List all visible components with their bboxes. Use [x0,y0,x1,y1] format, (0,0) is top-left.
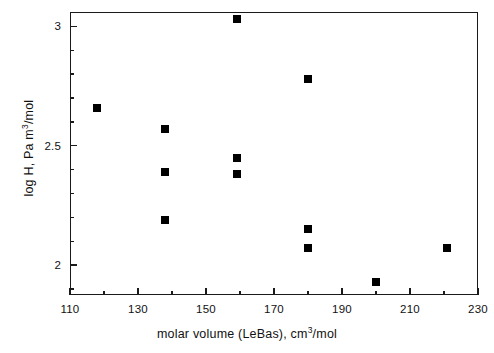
data-point [233,154,241,162]
x-major-tick [341,288,342,295]
y-major-tick [70,26,77,27]
x-tick-label: 230 [468,303,488,315]
y-minor-tick [70,121,74,122]
y-axis-label: log H, Pa m3/mol [20,28,36,268]
data-point [233,170,241,178]
scatter-chart-figure: 110130150170190210230 22.53 molar volume… [0,0,494,353]
x-minor-tick [171,291,172,295]
x-minor-tick [239,291,240,295]
x-tick-label: 110 [61,303,80,315]
y-minor-tick [70,241,74,242]
x-axis-label-pre: molar volume (LeBas), cm [157,327,308,341]
y-minor-tick [70,169,74,170]
x-major-tick [273,288,274,295]
x-major-tick [137,288,138,295]
y-axis-label-pre: log H, Pa m [22,129,36,197]
y-major-tick [70,264,77,265]
x-tick-label: 210 [400,303,420,315]
x-axis-label: molar volume (LeBas), cm3/mol [0,325,494,341]
x-tick-label: 190 [332,303,352,315]
y-minor-tick [70,97,74,98]
x-minor-tick [307,291,308,295]
data-point [233,15,241,23]
chart-page: 110130150170190210230 22.53 molar volume… [0,0,494,353]
x-major-tick [409,288,410,295]
x-minor-tick [375,291,376,295]
y-minor-tick [70,217,74,218]
y-minor-tick [70,288,74,289]
data-point [304,225,312,233]
data-point [161,168,169,176]
plot-area [70,12,478,295]
x-major-tick [205,288,206,295]
y-axis-label-superscript: 3 [20,124,30,129]
y-axis-label-post: /mol [22,100,36,124]
x-tick-label: 150 [196,303,216,315]
data-point [161,216,169,224]
y-minor-tick [70,73,74,74]
data-point [304,75,312,83]
data-point [443,244,451,252]
y-minor-tick [70,193,74,194]
x-major-tick [477,288,478,295]
x-axis-label-post: /mol [313,327,337,341]
y-major-tick [70,145,77,146]
x-minor-tick [103,291,104,295]
data-point [304,244,312,252]
x-tick-label: 170 [264,303,284,315]
data-point [93,104,101,112]
x-tick-label: 130 [128,303,148,315]
x-minor-tick [443,291,444,295]
data-point [161,125,169,133]
data-point [372,278,380,286]
y-minor-tick [70,50,74,51]
